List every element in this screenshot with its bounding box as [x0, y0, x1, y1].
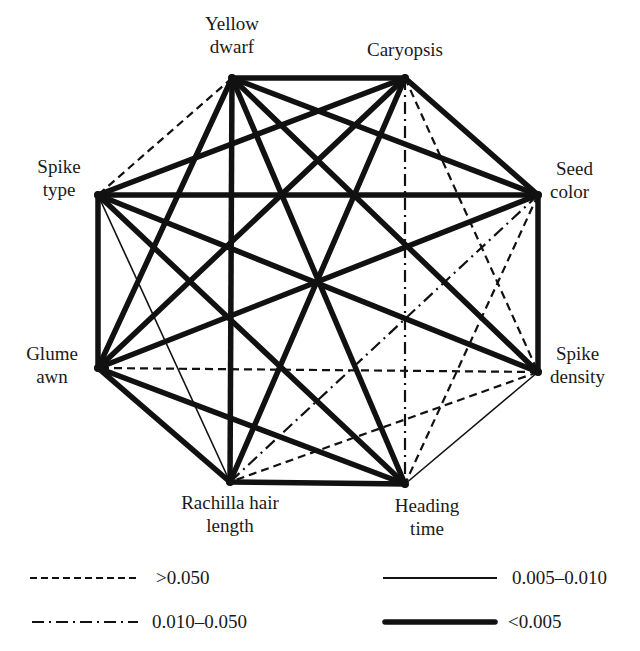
node-label-rachilla-hair-length: Rachilla hair length — [160, 491, 300, 537]
label-line: time — [377, 517, 477, 540]
node-HT — [401, 480, 409, 488]
node-label-glume-awn: Glume awn — [12, 342, 92, 388]
legend-label: <0.005 — [508, 611, 561, 633]
label-line: Spike — [24, 155, 94, 178]
node-label-spike-density: Spike density — [550, 342, 630, 388]
label-line: dwarf — [192, 35, 272, 58]
label-line: type — [24, 178, 94, 201]
label-line: Seed — [550, 157, 630, 180]
edge-HT-RH — [230, 482, 405, 484]
label-line: density — [550, 365, 630, 388]
label-line: length — [160, 514, 300, 537]
node-SD — [534, 368, 542, 376]
legend-dash-dot-line-icon — [30, 617, 140, 627]
label-line: awn — [12, 365, 92, 388]
label-line: Yellow — [192, 12, 272, 35]
node-SC — [534, 191, 542, 199]
edge-SD-GA — [98, 368, 538, 372]
edge-SD-HT — [405, 372, 538, 484]
label-line: Heading — [377, 494, 477, 517]
edge-HT-ST — [98, 195, 405, 484]
legend-item-r0010-0050: 0.010–0.050 — [30, 610, 247, 634]
legend-label: 0.005–0.010 — [512, 567, 607, 589]
edge-HT-GA — [98, 368, 405, 484]
label-line: Caryopsis — [355, 38, 455, 61]
node-ST — [94, 191, 102, 199]
legend-label: 0.010–0.050 — [152, 611, 247, 633]
node-label-heading-time: Heading time — [377, 494, 477, 540]
node-label-yellow-dwarf: Yellow dwarf — [192, 12, 272, 58]
label-line: color — [550, 180, 630, 203]
legend-item-r0005-0010: 0.005–0.010 — [382, 566, 607, 590]
legend-item-lt0005: <0.005 — [382, 610, 561, 634]
legend-thin-line-icon — [382, 573, 498, 583]
edge-RH-GA — [98, 368, 230, 482]
legend-dashed-line-icon — [28, 573, 140, 583]
label-line: Rachilla hair — [160, 491, 300, 514]
label-line: Glume — [12, 342, 92, 365]
legend-thick-line-icon — [382, 617, 498, 627]
node-RH — [226, 478, 234, 486]
legend-item-gt0050: >0.050 — [28, 566, 209, 590]
label-line: Spike — [550, 342, 630, 365]
edge-YD-ST — [98, 78, 232, 195]
node-label-seed-color: Seed color — [550, 157, 630, 203]
node-CA — [401, 74, 409, 82]
node-GA — [94, 364, 102, 372]
edge-CA-SC — [405, 78, 538, 195]
node-YD — [228, 74, 236, 82]
node-label-spike-type: Spike type — [24, 155, 94, 201]
node-label-caryopsis: Caryopsis — [355, 38, 455, 61]
legend-label: >0.050 — [156, 567, 209, 589]
linkage-diagram — [0, 0, 640, 651]
